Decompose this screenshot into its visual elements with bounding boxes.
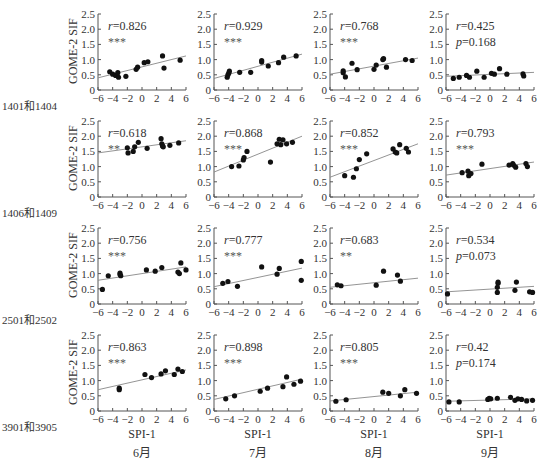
y-tick-label: 1.5 (313, 252, 327, 264)
y-tick-label: 0.5 (81, 283, 95, 295)
x-tick-label: −4 (223, 92, 235, 104)
y-tick-label: 1.0 (429, 54, 443, 66)
y-tick-label: 0 (206, 191, 212, 203)
x-tick-label: −4 (455, 199, 467, 211)
y-tick-label: 0.5 (429, 69, 443, 81)
data-point (266, 63, 271, 68)
r-value-label: r=0.805 (340, 340, 378, 354)
data-point (349, 61, 354, 66)
y-tick-label: 1.5 (197, 145, 211, 157)
x-axis-label: SPI-1 (208, 427, 308, 442)
scatter-panel-3-4: −6−4−2024600.51.01.52.02.5r=0.534p=0.073 (429, 222, 537, 318)
y-tick-label: 0.5 (429, 390, 443, 402)
x-tick-label: 2 (154, 199, 160, 211)
y-tick-label: 0.5 (81, 176, 95, 188)
data-point (280, 384, 285, 389)
data-point (268, 159, 273, 164)
x-tick-label: −2 (237, 92, 249, 104)
data-point (403, 57, 408, 62)
y-tick-label: 2.0 (313, 130, 327, 142)
data-point (445, 291, 450, 296)
y-tick-label: 0 (206, 298, 212, 310)
x-tick-label: −2 (121, 92, 133, 104)
p-value-label: p=0.174 (455, 356, 496, 370)
data-point (153, 269, 158, 274)
y-tick-label: 2.5 (429, 222, 443, 234)
x-tick-label: 4 (401, 306, 407, 318)
data-point (492, 72, 497, 77)
data-point (135, 65, 140, 70)
y-tick-label: 1.5 (313, 145, 327, 157)
data-point (381, 56, 386, 61)
data-point (384, 65, 389, 70)
month-label: 8月 (324, 443, 424, 461)
y-tick-label: 2.5 (429, 329, 443, 341)
x-tick-label: 6 (415, 199, 421, 211)
data-point (508, 395, 513, 400)
data-point (530, 398, 535, 403)
scatter-panel-2-4: −6−4−2024600.51.01.52.02.5r=0.793*** (429, 115, 537, 211)
row-label: 1401和1404 (2, 97, 57, 113)
data-point (225, 279, 230, 284)
y-tick-label: 1.0 (81, 54, 95, 66)
y-tick-label: 0.5 (313, 390, 327, 402)
data-point (451, 76, 456, 81)
data-point (402, 387, 407, 392)
y-tick-label: 0.5 (313, 69, 327, 81)
data-point (343, 74, 348, 79)
data-point (333, 399, 338, 404)
x-tick-label: 0 (255, 199, 261, 211)
y-tick-label: 2.0 (197, 237, 211, 249)
y-axis-label: GOME-2 SIF (66, 232, 81, 298)
r-value-label: r=0.768 (340, 19, 378, 33)
y-tick-label: 0 (438, 191, 444, 203)
r-value-label: r=0.793 (456, 126, 494, 140)
x-tick-label: 0 (487, 199, 493, 211)
x-tick-label: 2 (270, 413, 276, 425)
y-axis-label: GOME-2 SIF (66, 18, 81, 84)
p-value-label: p=0.168 (455, 35, 496, 49)
x-tick-label: 2 (154, 92, 160, 104)
x-tick-label: −4 (107, 413, 119, 425)
y-tick-label: 2.0 (313, 344, 327, 356)
x-tick-label: 2 (502, 306, 508, 318)
data-point (220, 281, 225, 286)
x-tick-label: 4 (285, 413, 291, 425)
r-value-label: r=0.929 (224, 19, 262, 33)
y-tick-label: 1.0 (197, 268, 211, 280)
r-value-label: r=0.826 (108, 19, 146, 33)
data-point (274, 272, 279, 277)
data-point (394, 150, 399, 155)
y-tick-label: 2.5 (81, 8, 95, 20)
r-value-label: r=0.868 (224, 126, 262, 140)
x-tick-label: 2 (386, 413, 392, 425)
data-point (495, 290, 500, 295)
data-point (457, 75, 462, 80)
y-tick-label: 1.5 (313, 359, 327, 371)
x-tick-label: −4 (223, 306, 235, 318)
x-tick-label: 2 (502, 199, 508, 211)
y-tick-label: 1.5 (197, 252, 211, 264)
data-point (158, 371, 163, 376)
x-tick-label: 4 (285, 92, 291, 104)
y-tick-label: 0.5 (81, 390, 95, 402)
data-point (159, 265, 164, 270)
data-point (172, 372, 177, 377)
y-tick-label: 1.0 (197, 161, 211, 173)
y-tick-label: 0 (322, 298, 328, 310)
y-tick-label: 0 (90, 405, 96, 417)
y-tick-label: 1.5 (197, 38, 211, 50)
data-point (115, 70, 120, 75)
y-tick-label: 0 (438, 84, 444, 96)
scatter-panel-3-3: −6−4−2024600.51.01.52.02.5r=0.683** (313, 222, 421, 318)
data-point (342, 173, 347, 178)
x-tick-label: 0 (139, 199, 145, 211)
y-tick-label: 1.5 (81, 38, 95, 50)
data-point (381, 269, 386, 274)
x-axis-label: SPI-1 (324, 427, 424, 442)
x-tick-label: 4 (517, 92, 523, 104)
x-tick-label: 0 (371, 199, 377, 211)
data-point (176, 140, 181, 145)
x-axis-label: SPI-1 (92, 427, 192, 442)
data-point (530, 290, 535, 295)
